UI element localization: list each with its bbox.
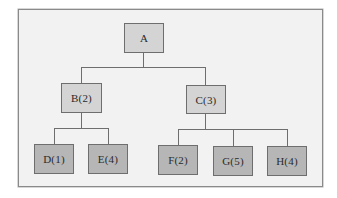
tree-node-d: D(1)	[34, 144, 74, 174]
connector-to-h	[287, 129, 288, 146]
connector-b-down	[81, 112, 82, 128]
node-label: A	[140, 32, 148, 44]
node-label: H(4)	[276, 155, 298, 167]
connector-to-g	[233, 129, 234, 146]
tree-node-f: F(2)	[158, 145, 198, 175]
tree-node-g: G(5)	[213, 146, 253, 176]
connector-to-d	[54, 128, 55, 144]
connector-b-horizontal	[54, 128, 108, 129]
connector-to-b	[81, 67, 82, 83]
connector-to-e	[108, 128, 109, 144]
tree-node-h: H(4)	[267, 146, 307, 176]
node-label: G(5)	[222, 155, 244, 167]
node-label: F(2)	[168, 154, 188, 166]
connector-c-down	[205, 113, 206, 129]
tree-node-e: E(4)	[88, 144, 128, 174]
tree-node-b: B(2)	[61, 83, 102, 113]
connector-a-down	[143, 52, 144, 67]
connector-to-f	[178, 129, 179, 145]
node-label: E(4)	[98, 153, 118, 165]
tree-node-a: A	[124, 23, 164, 53]
connector-to-c	[205, 67, 206, 85]
node-label: D(1)	[43, 153, 65, 165]
tree-node-c: C(3)	[186, 85, 226, 114]
node-label: B(2)	[71, 92, 92, 104]
node-label: C(3)	[196, 94, 217, 106]
connector-a-horizontal	[81, 67, 206, 68]
